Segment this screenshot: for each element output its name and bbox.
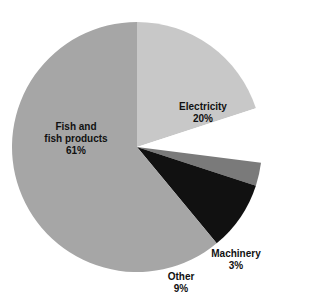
- label-precious-value: 7%: [195, 211, 237, 223]
- label-fish-name-1: Fish and: [44, 121, 107, 133]
- label-other-value: 9%: [168, 283, 195, 295]
- label-machinery-value: 3%: [211, 260, 260, 272]
- label-precious-name-1: Precious: [195, 187, 237, 199]
- label-precious-name-2: metals: [195, 199, 237, 211]
- label-other: Other 9%: [168, 271, 195, 295]
- label-precious-metals: Precious metals 7%: [195, 187, 237, 223]
- label-fish-name-2: fish products: [44, 133, 107, 145]
- label-electricity: Electricity 20%: [179, 101, 227, 125]
- label-electricity-value: 20%: [179, 113, 227, 125]
- label-machinery-name: Machinery: [211, 248, 260, 260]
- label-other-name: Other: [168, 271, 195, 283]
- label-fish: Fish and fish products 61%: [44, 121, 107, 157]
- label-fish-value: 61%: [44, 145, 107, 157]
- label-electricity-name: Electricity: [179, 101, 227, 113]
- label-machinery: Machinery 3%: [211, 248, 260, 272]
